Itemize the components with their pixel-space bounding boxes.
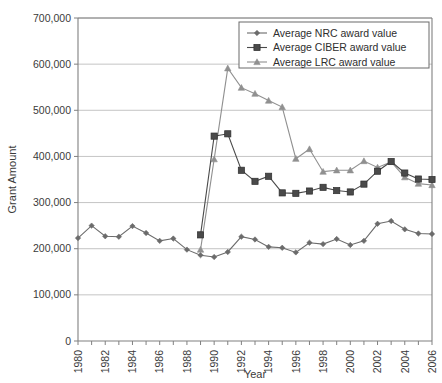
data-point <box>197 232 203 238</box>
xtick-label: 2006 <box>426 350 438 374</box>
xtick-label: 1984 <box>126 350 138 374</box>
xtick-label: 1988 <box>181 350 193 374</box>
data-point <box>279 190 285 196</box>
y-axis-title: Grant Amount <box>6 146 18 214</box>
data-point <box>157 238 162 243</box>
data-point <box>361 158 367 164</box>
legend-swatch-marker <box>254 44 260 50</box>
data-point <box>374 168 380 174</box>
data-point <box>225 131 231 137</box>
ytick-label: 0 <box>65 335 71 347</box>
data-point <box>252 237 257 242</box>
chart-canvas: 0100,000200,000300,000400,000500,000600,… <box>0 0 442 383</box>
line-chart: 0100,000200,000300,000400,000500,000600,… <box>0 0 442 383</box>
xtick-label: 2004 <box>399 350 411 374</box>
legend-label: Average LRC award value <box>273 56 396 68</box>
xtick-label: 1982 <box>99 350 111 374</box>
data-point <box>320 184 326 190</box>
xtick-label: 2002 <box>371 350 383 374</box>
data-point <box>306 146 312 152</box>
ytick-label: 700,000 <box>33 12 71 24</box>
data-point <box>238 167 244 173</box>
data-point <box>429 231 434 236</box>
data-point <box>211 133 217 139</box>
ytick-label: 500,000 <box>33 104 71 116</box>
data-point <box>388 218 393 223</box>
data-point <box>402 170 408 176</box>
data-point <box>198 252 203 257</box>
xtick-label: 1986 <box>153 350 165 374</box>
data-point <box>280 245 285 250</box>
xtick-label: 1980 <box>72 350 84 374</box>
data-point <box>143 230 148 235</box>
ytick-label: 300,000 <box>33 196 71 208</box>
data-point <box>252 90 258 96</box>
series-line <box>201 134 432 235</box>
data-point <box>348 242 353 247</box>
data-point <box>402 227 407 232</box>
data-point <box>252 178 258 184</box>
xtick-label: 2000 <box>344 350 356 374</box>
ytick-label: 100,000 <box>33 288 71 300</box>
data-point <box>361 181 367 187</box>
xtick-label: 1990 <box>208 350 220 374</box>
data-point <box>415 176 421 182</box>
xtick-label: 1996 <box>290 350 302 374</box>
data-point <box>429 176 435 182</box>
series-triangle <box>197 65 435 252</box>
legend-label: Average CIBER award value <box>273 41 407 53</box>
legend: Average NRC award valueAverage CIBER awa… <box>239 22 429 68</box>
data-point <box>334 187 340 193</box>
data-point <box>334 236 339 241</box>
series-line <box>201 68 432 249</box>
data-point <box>225 65 231 71</box>
data-point <box>388 158 394 164</box>
series-diamond <box>75 218 434 259</box>
ytick-label: 200,000 <box>33 242 71 254</box>
data-point <box>197 246 203 252</box>
ytick-label: 600,000 <box>33 58 71 70</box>
data-point <box>265 97 271 103</box>
data-point <box>347 189 353 195</box>
data-point <box>306 188 312 194</box>
ytick-label: 400,000 <box>33 150 71 162</box>
data-point <box>320 241 325 246</box>
xtick-label: 1998 <box>317 350 329 374</box>
data-point <box>266 173 272 179</box>
data-point <box>416 231 421 236</box>
legend-label: Average NRC award value <box>273 27 397 39</box>
data-point <box>211 254 216 259</box>
data-point <box>293 190 299 196</box>
data-point <box>279 104 285 110</box>
series-square <box>197 131 435 238</box>
data-point <box>211 156 217 162</box>
x-axis-title: Year <box>244 368 267 380</box>
